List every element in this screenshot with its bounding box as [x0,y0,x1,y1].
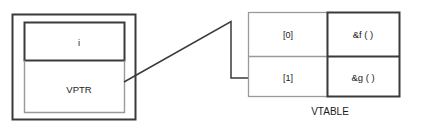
vtable-index-1: [1] [283,73,293,83]
vtable-index-column [249,13,328,97]
vtable-entry-0: &f ( ) [353,29,374,40]
vtable: [0] &f ( ) [1] &g ( ) VTABLE [249,13,400,118]
vtable-caption: VTABLE [311,106,349,117]
vtable-entry-1: &g ( ) [351,72,374,83]
vptr-vtable-diagram: i VPTR [0] &f ( ) [1] &g ( ) VTABLE [0,0,421,129]
vptr-label: VPTR [66,84,91,95]
object-instance: i VPTR [13,15,136,120]
vtable-index-0: [0] [283,30,293,40]
diagram-canvas: i VPTR [0] &f ( ) [1] &g ( ) VTABLE [0,0,421,129]
data-member-cell [25,23,125,61]
data-member-label: i [78,37,80,48]
vtable-entry-column [328,13,400,97]
